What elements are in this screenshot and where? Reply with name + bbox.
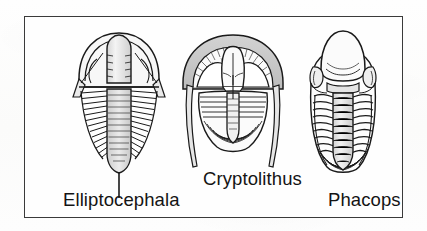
figure-frame: Elliptocephala Cryptolithus Phacops <box>24 16 403 218</box>
figure-screenshot: Elliptocephala Cryptolithus Phacops <box>0 0 427 231</box>
species-label-phacops: Phacops <box>328 189 401 211</box>
species-label-cryptolithus: Cryptolithus <box>203 168 302 190</box>
species-label-elliptocephala: Elliptocephala <box>63 189 180 211</box>
